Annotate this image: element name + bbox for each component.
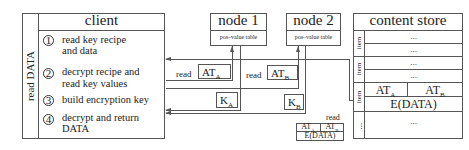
read-data-side-label: read DATA bbox=[24, 44, 36, 108]
cs-ellipsis: ... bbox=[364, 70, 463, 80]
node1-request-horizontal bbox=[166, 80, 233, 81]
node2-request-line bbox=[298, 46, 299, 89]
client-title: client bbox=[38, 12, 165, 29]
step-text: and data bbox=[62, 45, 97, 56]
ka-return-line bbox=[166, 110, 241, 111]
client-title-divider bbox=[38, 30, 165, 31]
kb-return-line bbox=[166, 113, 306, 114]
step-number: 2 bbox=[43, 68, 54, 79]
request-line-top bbox=[166, 59, 349, 60]
cs-item-label: item bbox=[355, 56, 363, 82]
arrow-left-icon bbox=[165, 111, 171, 115]
at-a-message: ATA bbox=[198, 64, 231, 79]
node2-response-line bbox=[305, 46, 306, 113]
node-1-table-label: pos–value table bbox=[210, 34, 267, 40]
arrow-left-icon bbox=[165, 57, 171, 61]
read-data-packet-label: read bbox=[326, 113, 340, 122]
at-b-message: ATB bbox=[267, 65, 298, 80]
node-2-table-label: pos–value table bbox=[286, 34, 341, 40]
client-divider bbox=[38, 13, 39, 139]
step-number: 4 bbox=[43, 114, 54, 125]
cs-ellipsis: ... bbox=[364, 57, 463, 67]
cs-connector-horizontal bbox=[349, 100, 353, 101]
cs-ellipsis: ... bbox=[364, 44, 463, 54]
cs-item-label: item bbox=[355, 30, 363, 56]
step-text: decrypt recipe and bbox=[62, 66, 140, 77]
k-a-message: KA bbox=[216, 92, 238, 108]
node-2-title: node 2 bbox=[286, 12, 341, 29]
read-at-b-label: read bbox=[246, 70, 262, 80]
read-at-a-label: read bbox=[176, 69, 192, 79]
cs-last-label: ... bbox=[354, 113, 364, 139]
cs-connector-vertical bbox=[349, 59, 350, 101]
cs-item-label: item bbox=[355, 84, 363, 110]
step-text: DATA bbox=[62, 123, 89, 134]
step-text: read key recipe bbox=[62, 34, 126, 45]
node-1-divider bbox=[210, 30, 267, 31]
k-b-message: KB bbox=[284, 94, 304, 110]
content-store-title: content store bbox=[353, 12, 463, 29]
node-1-title: node 1 bbox=[210, 12, 267, 29]
cs-row-line bbox=[353, 82, 463, 83]
step-text: build encryption key bbox=[62, 94, 149, 105]
cs-ellipsis: ... bbox=[364, 116, 463, 126]
step-number: 3 bbox=[43, 95, 54, 106]
cs-ellipsis: ... bbox=[364, 31, 463, 41]
node-2-divider bbox=[286, 30, 341, 31]
arrow-up-icon bbox=[296, 46, 300, 52]
node2-request-horizontal bbox=[166, 88, 299, 89]
packet-data: E(DATA) bbox=[296, 131, 344, 140]
step-number: 1 bbox=[43, 35, 54, 46]
cs-target-data: E(DATA) bbox=[364, 97, 463, 112]
step-text: read key values bbox=[62, 78, 127, 89]
node1-response-line bbox=[240, 46, 241, 110]
arrow-up-icon bbox=[230, 46, 234, 52]
step-text: decrypt and return bbox=[62, 112, 139, 123]
